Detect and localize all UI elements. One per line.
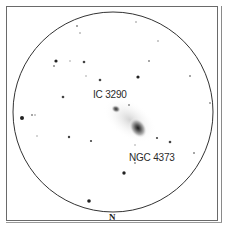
star [90,140,92,142]
star [69,60,70,61]
star [87,199,91,203]
star [85,75,86,76]
star [53,65,55,67]
star [36,135,37,136]
star [189,75,191,77]
star [122,171,125,174]
star [193,152,195,154]
star [34,114,36,116]
star [31,114,33,116]
star [134,144,135,145]
star [136,75,139,78]
star [135,21,137,23]
star [62,96,65,99]
star [20,116,24,120]
label-ngc4373: NGC 4373 [129,152,175,163]
star [79,32,81,34]
star [54,59,57,62]
star [156,137,158,139]
star [128,104,130,106]
star [83,61,86,64]
star [157,40,159,42]
star [99,79,102,82]
label-ic3290: IC 3290 [93,89,127,100]
star [169,141,172,144]
star [148,60,150,62]
star-field [0,0,226,227]
north-marker: N [109,212,116,222]
star [209,102,211,104]
star [68,136,70,138]
star [76,25,78,27]
